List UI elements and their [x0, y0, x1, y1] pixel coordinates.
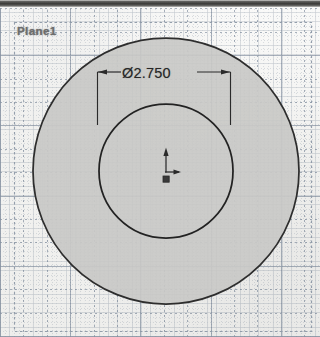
- origin-point-icon[interactable]: [163, 176, 169, 182]
- sketch-geometry-layer[interactable]: [0, 0, 320, 337]
- plane-label[interactable]: Plane1: [17, 25, 56, 37]
- cad-sketch-viewport[interactable]: Plane1 Ø2.750: [0, 0, 320, 337]
- diameter-dimension-text[interactable]: Ø2.750: [122, 65, 171, 81]
- scan-top-band: [0, 0, 320, 7]
